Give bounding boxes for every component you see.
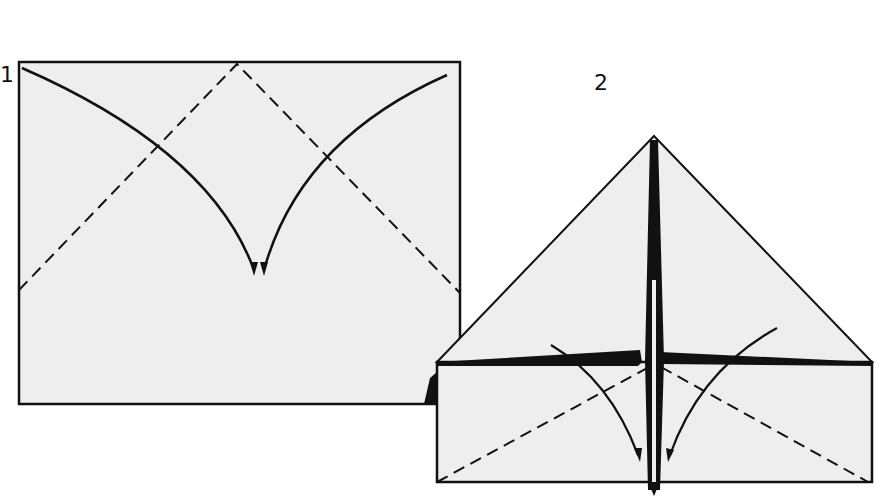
paper-rectangle (19, 62, 460, 404)
step-1-figure (19, 62, 460, 404)
step-2-figure (437, 136, 872, 496)
spine-highlight (652, 280, 656, 488)
origami-diagram (0, 0, 887, 496)
